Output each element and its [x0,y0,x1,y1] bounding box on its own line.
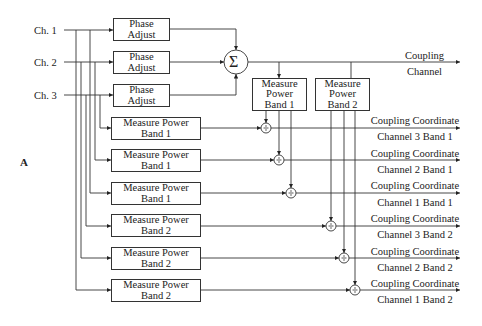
coupling-measure-power-band1: Measure Power Band 1 [252,78,307,111]
output-label-2-line1: Coupling Coordinate [360,148,470,159]
box-line: Band 2 [141,291,171,302]
box-line: Phase [129,19,154,30]
output-label-3-line1: Coupling Coordinate [360,180,470,191]
box-line: Band 2 [327,100,357,111]
output-label-1-line2: Channel 3 Band 1 [360,131,470,142]
box-line: Band 2 [141,259,171,270]
input-ch1-label: Ch. 1 [34,25,57,36]
figure-label: A [20,156,28,168]
box-line: Adjust [127,30,155,41]
coupling-channel-label-line2: Channel [407,66,442,77]
input-ch3-label: Ch. 3 [34,90,57,101]
box-line: Measure Power [123,280,189,291]
box-line: Measure Power [123,248,189,259]
output-label-1-line1: Coupling Coordinate [360,115,470,126]
channel-measure-power-box-2: Measure Power Band 1 [111,149,201,172]
output-label-5-line2: Channel 2 Band 2 [360,262,470,273]
channel-measure-power-box-1: Measure Power Band 1 [111,117,201,140]
output-label-5-line1: Coupling Coordinate [360,246,470,257]
phase-adjust-box-ch1: Phase Adjust [113,18,170,41]
box-line: Measure Power [123,118,189,129]
output-label-4-line2: Channel 3 Band 2 [360,229,470,240]
channel-measure-power-box-6: Measure Power Band 2 [111,279,201,302]
box-line: Measure Power [123,183,189,194]
coupling-channel-label-line1: Coupling [405,50,444,61]
box-line: Band 1 [264,100,294,111]
output-label-6-line2: Channel 1 Band 2 [360,294,470,305]
phase-adjust-box-ch2: Phase Adjust [113,51,170,74]
box-line: Measure Power [123,150,189,161]
summation-icon: Σ [229,53,238,71]
box-line: Adjust [127,63,155,74]
box-line: Phase [129,85,154,96]
coupling-measure-power-band2: Measure Power Band 2 [315,78,370,111]
output-label-3-line2: Channel 1 Band 1 [360,197,470,208]
output-label-4-line1: Coupling Coordinate [360,213,470,224]
phase-adjust-box-ch3: Phase Adjust [113,84,170,107]
box-line: Band 2 [141,226,171,237]
box-line: Band 1 [141,129,171,140]
output-label-6-line1: Coupling Coordinate [360,278,470,289]
box-line: Adjust [127,96,155,107]
box-line: Band 1 [141,161,171,172]
channel-measure-power-box-3: Measure Power Band 1 [111,182,201,205]
channel-measure-power-box-5: Measure Power Band 2 [111,247,201,270]
box-line: Measure Power [123,215,189,226]
output-label-2-line2: Channel 2 Band 1 [360,164,470,175]
input-ch2-label: Ch. 2 [34,57,57,68]
box-line: Band 1 [141,194,171,205]
channel-measure-power-box-4: Measure Power Band 2 [111,214,201,237]
box-line: Phase [129,52,154,63]
